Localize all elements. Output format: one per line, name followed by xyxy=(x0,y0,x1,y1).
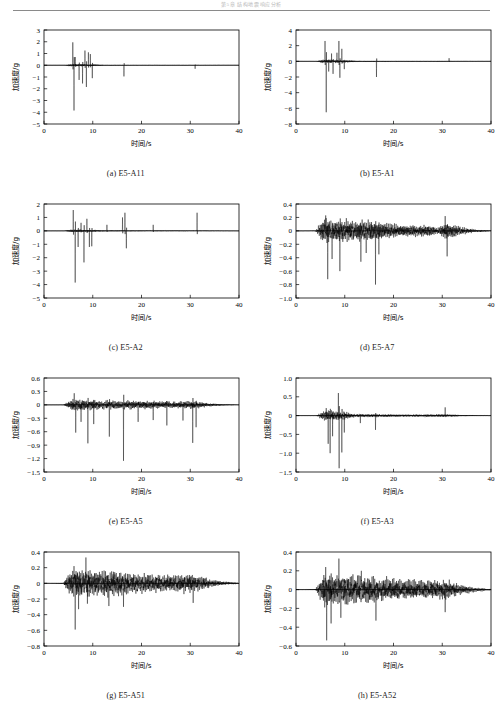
svg-text:20: 20 xyxy=(390,649,398,657)
svg-text:0.4: 0.4 xyxy=(31,549,40,557)
svg-text:30: 30 xyxy=(187,301,195,309)
svg-text:0: 0 xyxy=(37,62,41,70)
svg-text:时间/s: 时间/s xyxy=(383,139,403,148)
svg-text:20: 20 xyxy=(390,301,398,309)
figure-cell-b: −8−6−4−2024010203040时间/s加速度/g (b) E5-A1 xyxy=(252,14,503,188)
svg-text:加速度/g: 加速度/g xyxy=(11,411,20,439)
svg-text:−5: −5 xyxy=(33,121,41,129)
svg-text:20: 20 xyxy=(138,301,146,309)
svg-text:0: 0 xyxy=(288,412,292,420)
svg-text:时间/s: 时间/s xyxy=(131,313,151,322)
svg-text:1: 1 xyxy=(37,50,41,58)
svg-text:−0.3: −0.3 xyxy=(27,415,40,423)
svg-text:10: 10 xyxy=(341,475,349,483)
caption-b: (b) E5-A1 xyxy=(252,164,503,188)
svg-text:0.6: 0.6 xyxy=(31,375,40,383)
svg-text:−2: −2 xyxy=(284,74,292,82)
figure-cell-a: −5−4−3−2−10123010203040时间/s加速度/g (a) E5-… xyxy=(0,14,252,188)
svg-text:0: 0 xyxy=(288,586,292,594)
svg-text:加速度/g: 加速度/g xyxy=(11,63,20,91)
svg-text:20: 20 xyxy=(138,475,146,483)
svg-text:−1: −1 xyxy=(33,241,41,249)
svg-text:40: 40 xyxy=(236,127,244,135)
svg-text:−0.4: −0.4 xyxy=(27,611,40,619)
svg-text:1.0: 1.0 xyxy=(283,375,292,383)
svg-text:10: 10 xyxy=(341,127,349,135)
svg-text:10: 10 xyxy=(341,649,349,657)
svg-text:时间/s: 时间/s xyxy=(383,661,403,670)
svg-text:0: 0 xyxy=(294,649,298,657)
running-header: 第5章 结构地震响应分析 xyxy=(0,0,503,13)
svg-text:40: 40 xyxy=(236,301,244,309)
svg-text:−2: −2 xyxy=(33,85,41,93)
svg-text:10: 10 xyxy=(89,127,97,135)
svg-text:20: 20 xyxy=(390,475,398,483)
svg-text:40: 40 xyxy=(236,649,244,657)
figure-row-2: −5−4−3−2−1012010203040时间/s加速度/g (c) E5-A… xyxy=(0,188,503,362)
figure-row-4: −0.8−0.6−0.4−0.200.20.4010203040时间/s加速度/… xyxy=(0,536,503,710)
svg-text:−1.5: −1.5 xyxy=(27,469,40,477)
svg-text:加速度/g: 加速度/g xyxy=(263,585,272,613)
svg-text:40: 40 xyxy=(487,301,495,309)
header-rule xyxy=(13,10,490,11)
svg-text:40: 40 xyxy=(487,475,495,483)
svg-text:30: 30 xyxy=(438,475,446,483)
svg-text:0: 0 xyxy=(294,127,298,135)
svg-text:−2: −2 xyxy=(33,254,41,262)
svg-text:20: 20 xyxy=(138,649,146,657)
svg-text:10: 10 xyxy=(89,475,97,483)
svg-text:−1.0: −1.0 xyxy=(279,295,292,303)
svg-text:−1: −1 xyxy=(33,74,41,82)
svg-text:30: 30 xyxy=(438,301,446,309)
svg-text:−1.0: −1.0 xyxy=(279,450,292,458)
svg-text:−1.2: −1.2 xyxy=(27,455,40,463)
svg-text:加速度/g: 加速度/g xyxy=(11,237,20,265)
figure-row-3: −1.5−1.2−0.9−0.6−0.300.30.6010203040时间/s… xyxy=(0,362,503,536)
svg-text:−3: −3 xyxy=(33,268,41,276)
svg-text:−0.4: −0.4 xyxy=(279,624,292,632)
svg-text:20: 20 xyxy=(390,127,398,135)
svg-text:时间/s: 时间/s xyxy=(383,313,403,322)
svg-text:0.2: 0.2 xyxy=(283,567,292,575)
svg-text:10: 10 xyxy=(89,649,97,657)
svg-text:−0.8: −0.8 xyxy=(27,643,40,651)
svg-text:−0.9: −0.9 xyxy=(27,442,40,450)
plot-g: −0.8−0.6−0.4−0.200.20.4010203040时间/s加速度/… xyxy=(0,536,252,686)
svg-text:时间/s: 时间/s xyxy=(131,661,151,670)
svg-text:10: 10 xyxy=(89,301,97,309)
svg-text:0: 0 xyxy=(42,301,46,309)
svg-text:−0.2: −0.2 xyxy=(279,605,292,613)
svg-text:0.5: 0.5 xyxy=(283,393,292,401)
svg-text:40: 40 xyxy=(487,127,495,135)
svg-text:−0.6: −0.6 xyxy=(279,643,292,651)
svg-text:加速度/g: 加速度/g xyxy=(263,63,272,91)
svg-text:0.2: 0.2 xyxy=(283,214,292,222)
svg-text:0: 0 xyxy=(294,301,298,309)
svg-text:0: 0 xyxy=(37,580,41,588)
plot-d: −1.0−0.8−0.6−0.4−0.200.20.4010203040时间/s… xyxy=(252,188,503,338)
svg-text:−4: −4 xyxy=(33,109,41,117)
plot-e: −1.5−1.2−0.9−0.6−0.300.30.6010203040时间/s… xyxy=(0,362,252,512)
caption-d: (d) E5-A7 xyxy=(252,338,503,362)
svg-text:加速度/g: 加速度/g xyxy=(11,585,20,613)
svg-text:−1.5: −1.5 xyxy=(279,469,292,477)
svg-text:2: 2 xyxy=(288,42,292,50)
svg-text:−0.4: −0.4 xyxy=(279,254,292,262)
plot-c: −5−4−3−2−1012010203040时间/s加速度/g xyxy=(0,188,252,338)
caption-c: (c) E5-A2 xyxy=(0,338,252,362)
plot-a: −5−4−3−2−10123010203040时间/s加速度/g xyxy=(0,14,252,164)
svg-text:−6: −6 xyxy=(284,105,292,113)
svg-text:−4: −4 xyxy=(33,281,41,289)
svg-text:时间/s: 时间/s xyxy=(131,487,151,496)
figure-cell-d: −1.0−0.8−0.6−0.4−0.200.20.4010203040时间/s… xyxy=(252,188,503,362)
figure-page: 第5章 结构地震响应分析 −5−4−3−2−10123010203040时间/s… xyxy=(0,0,503,719)
svg-text:−0.5: −0.5 xyxy=(279,431,292,439)
svg-text:30: 30 xyxy=(187,475,195,483)
svg-text:3: 3 xyxy=(37,27,41,35)
figure-cell-g: −0.8−0.6−0.4−0.200.20.4010203040时间/s加速度/… xyxy=(0,536,252,710)
svg-text:40: 40 xyxy=(236,475,244,483)
svg-text:0: 0 xyxy=(288,227,292,235)
svg-text:−8: −8 xyxy=(284,121,292,129)
caption-a: (a) E5-A11 xyxy=(0,164,252,188)
figure-cell-h: −0.6−0.4−0.200.20.4010203040时间/s加速度/g (h… xyxy=(252,536,503,710)
